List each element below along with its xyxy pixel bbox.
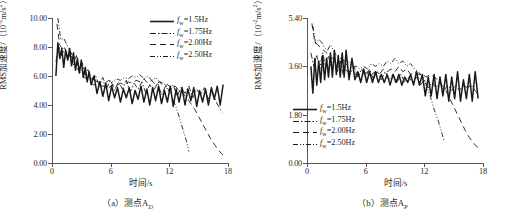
- legend-a: fw=1.5Hz fw=1.75Hz fw=2.00Hz fw=2.50Hz: [150, 16, 212, 62]
- figure-container: RMS加速度/（10-2m/s2） 0.00 2.00 4.00 6.00 8.…: [0, 0, 510, 221]
- y-axis-title-a-main: RMS加速度/（10: [0, 25, 8, 90]
- y-axis-title-a-close: ）: [0, 0, 8, 4]
- legend-item: fw=2.50Hz: [293, 139, 355, 151]
- x-tick-label: 6: [364, 167, 368, 176]
- legend-swatch-dashdotdot: [293, 140, 317, 149]
- x-tick-label: 0: [50, 167, 54, 176]
- chart-panel-b: RMS加速度/（10-2m/s2） 0.00 1.80 3.60 5.40 0 …: [255, 0, 510, 221]
- legend-swatch-dashed: [150, 40, 174, 49]
- chart-panel-a: RMS加速度/（10-2m/s2） 0.00 2.00 4.00 6.00 8.…: [0, 0, 255, 221]
- legend-label: fw=2.50Hz: [320, 137, 355, 152]
- caption-a: （a）测点AD: [0, 196, 255, 210]
- y-tick-label: 8.00: [33, 43, 47, 52]
- y-axis-title-a-tail-exp: 2: [0, 4, 3, 7]
- x-tick-label: 12: [420, 167, 428, 176]
- x-tick-label: 18: [479, 167, 487, 176]
- x-axis-line-b: [307, 163, 484, 164]
- series-path: [311, 50, 478, 101]
- y-tick-label: 4.00: [33, 101, 47, 110]
- x-tick-label: 18: [224, 167, 232, 176]
- legend-label: fw=2.50Hz: [177, 49, 212, 64]
- y-axis-title-a-exp: -2: [0, 20, 3, 25]
- y-tick-label: 6.00: [33, 72, 47, 81]
- y-tick-label: 3.60: [288, 62, 302, 71]
- y-tick-label: 0.00: [33, 159, 47, 168]
- legend-b: fw=1.5Hz fw=1.75Hz fw=2.00Hz fw=2.50Hz: [293, 104, 355, 150]
- legend-swatch-dashdotdot: [150, 52, 174, 61]
- x-tick-label: 0: [305, 167, 309, 176]
- x-tick-label: 12: [165, 167, 173, 176]
- legend-swatch-solid: [293, 105, 317, 114]
- y-axis-title-b: RMS加速度/（10-2m/s2）: [251, 0, 263, 90]
- y-axis-title-b-main: RMS加速度/（10: [253, 25, 263, 90]
- y-axis-title-b-exp: -2: [252, 20, 258, 25]
- legend-item: fw=2.50Hz: [150, 51, 212, 63]
- caption-b: （b）测点AP: [255, 196, 510, 210]
- y-tick-label: 5.40: [288, 14, 302, 23]
- y-axis-title-b-tail-exp: 2: [252, 4, 258, 7]
- y-tick-label: 0.00: [288, 159, 302, 168]
- x-axis-line-a: [52, 163, 229, 164]
- legend-swatch-dashed: [293, 128, 317, 137]
- x-tick-label: 6: [109, 167, 113, 176]
- y-tick-label: 10.00: [30, 14, 47, 23]
- y-axis-title-b-tail: m/s: [253, 7, 263, 19]
- y-axis-title-b-close: ）: [253, 0, 263, 4]
- legend-swatch-solid: [150, 17, 174, 26]
- y-axis-title-a-tail: m/s: [0, 7, 8, 19]
- legend-swatch-dashdot: [150, 29, 174, 38]
- y-axis-title-a: RMS加速度/（10-2m/s2）: [0, 0, 8, 90]
- x-axis-title-a: 时间/s: [52, 176, 229, 188]
- legend-swatch-dashdot: [293, 117, 317, 126]
- y-tick-label: 2.00: [33, 130, 47, 139]
- x-axis-title-b: 时间/s: [307, 176, 484, 188]
